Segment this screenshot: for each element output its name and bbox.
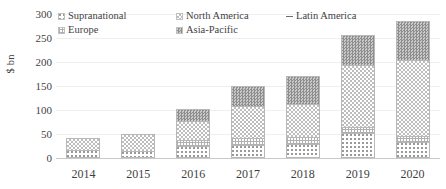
checker-dark-icon [176,27,183,34]
bar-segment[interactable] [341,65,375,127]
x-tick-label: 2018 [276,167,330,181]
bar-group[interactable] [121,134,155,158]
gridline [56,62,440,63]
y-tick-label: 150 [18,81,52,92]
legend-item-label: Asia-Pacific [186,24,238,36]
bar-segment[interactable] [286,137,320,144]
x-tick-label: 2016 [166,167,220,181]
legend-item[interactable]: Asia-Pacific [176,24,238,36]
bar-segment[interactable] [176,146,210,158]
bar-segment[interactable] [121,151,155,158]
bar-segment[interactable] [396,142,430,158]
y-tick-label: 200 [18,57,52,68]
line-marker-icon [286,13,293,20]
bar-segment[interactable] [286,104,320,138]
dotted-light-icon [58,13,65,20]
bar-segment[interactable] [66,150,100,158]
bar-group[interactable] [286,76,320,158]
bar-segment[interactable] [66,138,100,150]
y-tick-label: 300 [18,9,52,20]
bar-segment[interactable] [231,145,265,158]
category-axis-line [56,158,440,159]
y-tick-label: 100 [18,105,52,116]
chart-legend: SupranationalNorth AmericaLatin AmericaE… [58,10,358,40]
bar-group[interactable] [66,138,100,158]
legend-item-label: Europe [68,24,98,36]
legend-item-label: North America [186,10,249,22]
y-axis-tick-labels: 050100150200250300 [18,0,52,189]
bar-group[interactable] [396,21,430,158]
legend-item-label: Supranational [68,10,126,22]
grid-hatch-icon [58,27,65,34]
x-tick-label: 2020 [386,167,440,181]
x-axis-tick-labels: 2014201520162017201820192020 [56,163,440,185]
bar-segment[interactable] [231,86,265,106]
bar-segment[interactable] [176,121,210,140]
legend-item-label: Latin America [296,10,356,22]
x-tick-label: 2015 [111,167,165,181]
bar-group[interactable] [231,86,265,158]
x-tick-label: 2017 [221,167,275,181]
y-axis-title: $ bn [5,58,16,74]
x-tick-label: 2019 [331,167,385,181]
bar-segment[interactable] [286,76,320,103]
bar-segment[interactable] [231,106,265,139]
bar-group[interactable] [176,109,210,158]
bar-segment[interactable] [231,138,265,145]
bar-segment[interactable] [396,60,430,136]
bar-group[interactable] [341,35,375,158]
y-tick-label: 250 [18,33,52,44]
bar-segment[interactable] [341,133,375,158]
y-tick-label: 0 [18,153,52,164]
bar-segment[interactable] [121,134,155,151]
legend-item[interactable]: North America [176,10,249,22]
checker-light-icon [176,13,183,20]
y-tick-label: 50 [18,129,52,140]
x-tick-label: 2014 [56,167,110,181]
legend-item[interactable]: Supranational [58,10,126,22]
legend-item[interactable]: Europe [58,24,98,36]
stacked-bar-chart: $ bn 050100150200250300 2014201520162017… [0,0,446,189]
legend-item[interactable]: Latin America [286,10,356,22]
bar-segment[interactable] [286,144,320,158]
bar-segment[interactable] [396,21,430,60]
bar-segment[interactable] [176,109,210,121]
